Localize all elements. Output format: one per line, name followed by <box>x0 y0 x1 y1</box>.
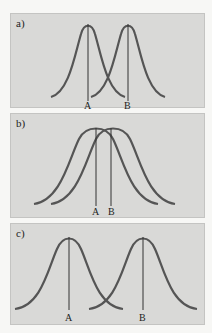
label-a: A <box>65 312 73 323</box>
panel-b-diagram: A B <box>11 114 206 219</box>
panel-c: c) A B <box>10 223 205 325</box>
panel-b: b) A B <box>10 113 205 218</box>
label-b: B <box>139 312 146 323</box>
label-a: A <box>84 100 92 109</box>
label-a: A <box>92 206 100 217</box>
panel-a: a) A B <box>10 13 205 108</box>
label-b: B <box>108 206 115 217</box>
label-b: B <box>124 100 131 109</box>
panel-c-diagram: A B <box>11 224 206 326</box>
panel-a-diagram: A B <box>11 14 206 109</box>
